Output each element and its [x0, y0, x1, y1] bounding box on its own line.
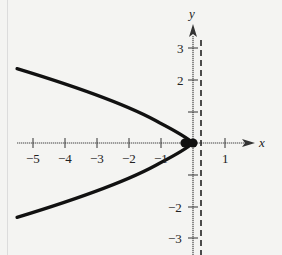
x-tick-label: −2 — [122, 151, 136, 166]
x-axis-label: x — [258, 135, 265, 150]
vertex-point — [188, 138, 197, 147]
x-tick-label: −5 — [26, 151, 40, 166]
graph-figure: −5 −4 −3 −2 −1 1 3 2 −2 −3 x y — [0, 0, 282, 255]
y-tick-label: −3 — [168, 231, 182, 246]
x-tick-label: −1 — [154, 151, 168, 166]
y-tick-label: −2 — [168, 200, 182, 215]
y-tick-label: 3 — [177, 41, 184, 56]
focus-point — [180, 138, 189, 147]
y-axis-arrow-icon — [189, 24, 197, 37]
x-tick-label: 1 — [222, 151, 229, 166]
y-tick-label: 2 — [177, 73, 184, 88]
x-tick-label: −3 — [90, 151, 104, 166]
x-tick-label: −4 — [58, 151, 72, 166]
parabola-chart: −5 −4 −3 −2 −1 1 3 2 −2 −3 x y — [0, 0, 282, 255]
y-axis-label: y — [187, 6, 195, 21]
x-axis — [17, 138, 255, 148]
